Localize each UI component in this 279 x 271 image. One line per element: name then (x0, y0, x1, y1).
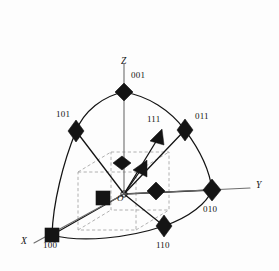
index-label-101: 101 (56, 110, 70, 119)
marker-010-glyph (203, 179, 221, 201)
pole-markers (45, 83, 221, 242)
index-label-010: 010 (203, 205, 217, 214)
marker-inner-001-glyph (113, 156, 131, 170)
marker-001-glyph (115, 83, 133, 101)
cell-edge-depth-3 (78, 210, 111, 230)
direction-vectors (52, 130, 212, 235)
coordinate-axes (34, 64, 250, 243)
index-label-100: 100 (43, 241, 57, 250)
marker-inner-100-glyph (96, 191, 110, 205)
marker-inner-arrowhead (133, 160, 147, 177)
marker-inner-010-glyph (147, 182, 165, 200)
index-label-110: 110 (156, 241, 170, 250)
projection-arcs (52, 92, 212, 239)
index-label-011: 011 (195, 112, 209, 121)
vector-110 (124, 194, 164, 226)
crystal-direction-figure: Z Y X O 001 101 011 111 010 110 100 (0, 0, 279, 271)
arc-100-110-010 (52, 190, 212, 239)
axis-line-y (124, 188, 250, 194)
marker-110-glyph (156, 215, 172, 237)
origin-label: O (117, 194, 124, 203)
axis-label-z: Z (121, 57, 126, 67)
axis-label-y: Y (256, 181, 261, 191)
index-label-001: 001 (131, 71, 145, 80)
marker-111-arrowhead (150, 129, 164, 145)
axis-label-x: X (21, 237, 27, 247)
index-label-111: 111 (147, 115, 160, 124)
figure-canvas (0, 0, 279, 271)
